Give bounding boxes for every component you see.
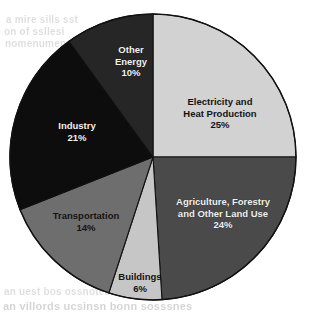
slice-label-line2: Energy: [115, 56, 147, 67]
slice-value-transportation: 14%: [34, 222, 138, 234]
slice-label-line2: and Other Land Use: [178, 208, 268, 219]
slice-label-line1: Transportation: [53, 210, 120, 221]
slice-label-line2: Heat Production: [183, 108, 256, 119]
slice-label-line1: Buildings: [118, 271, 161, 282]
slice-label-line1: Industry: [58, 120, 95, 131]
pie-slice-electricity: [153, 14, 296, 157]
slice-label-buildings: Buildings 6%: [107, 271, 173, 294]
slice-value-buildings: 6%: [107, 283, 173, 295]
slice-value-agriculture: 24%: [161, 219, 285, 231]
pie-chart: Electricity and Heat Production 25% Agri…: [0, 0, 309, 319]
slice-value-electricity: 25%: [168, 119, 272, 131]
slice-label-line1: Agriculture, Forestry: [176, 196, 270, 207]
slice-value-other-energy: 10%: [98, 67, 164, 79]
slice-value-industry: 21%: [36, 132, 118, 144]
slice-label-line1: Electricity and: [188, 96, 253, 107]
slice-label-agriculture: Agriculture, Forestry and Other Land Use…: [161, 196, 285, 231]
slice-label-industry: Industry 21%: [36, 120, 118, 143]
slice-label-other-energy: Other Energy 10%: [98, 44, 164, 79]
slice-label-line1: Other: [118, 44, 143, 55]
slice-label-electricity: Electricity and Heat Production 25%: [168, 96, 272, 131]
slice-label-transportation: Transportation 14%: [34, 210, 138, 233]
